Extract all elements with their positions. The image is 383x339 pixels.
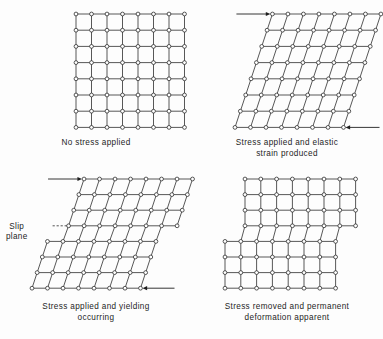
lattice-atom — [66, 271, 70, 275]
lattice-atom — [90, 28, 94, 32]
lattice-atom — [136, 126, 140, 130]
lattice-atom — [334, 271, 338, 275]
lattice-bond — [344, 63, 349, 79]
lattice-atom — [296, 77, 300, 81]
lattice-atom — [149, 255, 153, 259]
lattice-atom — [223, 271, 227, 275]
lattice-bond — [308, 30, 313, 46]
lattice-bond — [266, 111, 271, 127]
lattice-atom — [121, 77, 125, 81]
lattice-bond — [37, 257, 42, 273]
lattice-bond-slip — [320, 226, 324, 242]
lattice-atom — [129, 177, 133, 181]
lattice-atom — [280, 77, 284, 81]
lattice-atom — [295, 126, 299, 130]
lattice-atom — [175, 224, 179, 228]
lattice-atom — [46, 240, 50, 244]
lattice-atom — [46, 286, 50, 290]
lattice-atom — [144, 271, 148, 275]
lattice-bond — [58, 241, 63, 257]
lattice-bond — [115, 257, 120, 273]
lattice-bond — [235, 111, 240, 127]
lattice-bond-slip — [241, 226, 245, 242]
top-shear-arrow-head — [77, 177, 82, 181]
lattice-atom — [296, 28, 300, 32]
lattice-atom — [102, 255, 106, 259]
lattice-atom — [255, 286, 259, 290]
lattice-atom — [342, 126, 346, 130]
lattice-atom — [139, 193, 143, 197]
lattice-bond — [344, 111, 349, 127]
lattice-atom — [259, 177, 263, 181]
lattice-atom — [134, 208, 138, 212]
lattice-bond — [354, 79, 359, 95]
lattice-atom — [128, 271, 132, 275]
lattice-atom — [152, 109, 156, 113]
lattice-deformation-figure: No stress applied Stress applied and ela… — [0, 0, 383, 339]
lattice-bond — [324, 30, 329, 46]
panel-yielding: Slip plane Stress applied and yielding o… — [0, 169, 192, 339]
lattice-atom — [87, 208, 91, 212]
lattice-atom — [286, 271, 290, 275]
bottom-shear-arrow — [143, 286, 175, 290]
lattice-atom — [152, 126, 156, 130]
lattice-atom — [136, 12, 140, 16]
lattice-bond — [360, 63, 365, 79]
lattice-bond — [345, 14, 350, 30]
lattice-bond — [282, 111, 287, 127]
lattice-atom — [108, 193, 112, 197]
lattice-atom — [259, 93, 263, 97]
lattice-atom — [167, 77, 171, 81]
lattice-atom — [265, 77, 269, 81]
lattice-atom — [105, 61, 109, 65]
lattice-atom — [338, 193, 342, 197]
lattice-bond — [328, 111, 333, 127]
lattice-atom — [239, 240, 243, 244]
lattice-atom — [290, 93, 294, 97]
lattice-atom — [275, 224, 279, 228]
lattice-atom — [118, 208, 122, 212]
lattice-atom — [318, 271, 322, 275]
lattice-atom — [239, 255, 243, 259]
lattice-atom — [259, 224, 263, 228]
lattice-bond — [292, 79, 297, 95]
lattice-atom — [77, 193, 81, 197]
lattice-atom — [180, 208, 184, 212]
lattice-bond — [302, 95, 307, 111]
lattice-atom — [249, 126, 253, 130]
lattice-atom — [121, 93, 125, 97]
lattice-bond — [293, 30, 298, 46]
lattice-atom — [90, 45, 94, 49]
lattice-atom — [90, 126, 94, 130]
lattice-atom — [244, 93, 248, 97]
lattice-yielding — [0, 169, 192, 301]
lattice-atom — [374, 28, 378, 32]
lattice-atom — [105, 126, 109, 130]
lattice-atom — [61, 240, 65, 244]
lattice-atom — [264, 126, 268, 130]
lattice-bond — [141, 179, 146, 195]
lattice-bond — [42, 241, 47, 257]
lattice-atom — [302, 286, 306, 290]
lattice-atom — [343, 28, 347, 32]
lattice-bond — [73, 241, 78, 257]
lattice-atom — [167, 12, 171, 16]
lattice-atom — [108, 286, 112, 290]
lattice-atom — [121, 12, 125, 16]
lattice-atom — [354, 208, 358, 212]
lattice-atom — [317, 12, 321, 16]
caption-yielding: Stress applied and yielding occurring — [0, 302, 192, 323]
lattice-atom — [334, 240, 338, 244]
lattice-no-stress — [0, 0, 192, 138]
lattice-atom — [285, 109, 289, 113]
lattice-bond — [89, 241, 94, 257]
lattice-atom — [260, 45, 264, 49]
lattice-atom — [136, 28, 140, 32]
lattice-bond — [303, 46, 308, 62]
lattice-atom — [270, 61, 274, 65]
lattice-atom — [326, 126, 330, 130]
lattice-bond-slip — [336, 226, 340, 242]
lattice-atom — [259, 208, 263, 212]
lattice-bond — [339, 79, 344, 95]
lattice-bond — [141, 273, 146, 289]
